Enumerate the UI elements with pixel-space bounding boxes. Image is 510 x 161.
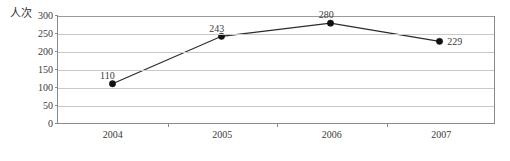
gridline <box>58 52 494 53</box>
y-tick-label: 50 <box>43 101 53 111</box>
x-tick-label-2006: 2006 <box>322 129 342 140</box>
y-tick-mark <box>55 123 58 124</box>
data-point-2007 <box>436 38 442 44</box>
data-label-2005: 243 <box>209 24 224 34</box>
y-tick-label: 0 <box>48 119 53 129</box>
y-tick-label: 300 <box>38 11 53 21</box>
gridline <box>58 16 494 17</box>
y-tick-mark <box>55 15 58 16</box>
gridline <box>58 106 494 107</box>
y-axis-title: 人次 <box>10 8 32 20</box>
y-tick-mark <box>55 69 58 70</box>
y-tick-mark <box>55 87 58 88</box>
y-tick-mark <box>55 51 58 52</box>
x-tick-mark <box>168 123 169 127</box>
data-label-2007: 229 <box>447 37 462 47</box>
data-point-2004 <box>109 81 115 87</box>
y-tick-label: 200 <box>38 47 53 57</box>
y-tick-label: 150 <box>38 65 53 75</box>
series-line-people <box>113 23 440 84</box>
x-tick-mark <box>277 123 278 127</box>
data-label-2004: 110 <box>100 71 115 81</box>
data-label-2006: 280 <box>319 10 334 20</box>
x-tick-label-2007: 2007 <box>431 129 451 140</box>
x-tick-label-2004: 2004 <box>103 129 123 140</box>
gridline <box>58 88 494 89</box>
gridline <box>58 34 494 35</box>
line-chart: 人次 0501001502002503002004200520062007110… <box>0 0 510 161</box>
y-tick-mark <box>55 105 58 106</box>
x-tick-label-2005: 2005 <box>212 129 232 140</box>
gridline <box>58 70 494 71</box>
plot-area: 0501001502002503002004200520062007110243… <box>57 16 495 124</box>
data-point-2006 <box>327 20 333 26</box>
y-tick-label: 100 <box>38 83 53 93</box>
y-tick-mark <box>55 33 58 34</box>
x-tick-mark <box>387 123 388 127</box>
y-tick-label: 250 <box>38 29 53 39</box>
